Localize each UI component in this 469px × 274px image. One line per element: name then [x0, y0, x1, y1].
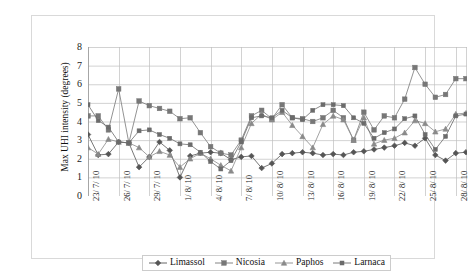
data-point-marker: [320, 152, 326, 158]
data-point-marker: [96, 119, 100, 123]
data-point-marker: [280, 108, 284, 112]
data-point-marker: [270, 116, 274, 120]
data-point-marker: [178, 142, 182, 146]
data-point-marker: [290, 116, 294, 120]
data-point-marker: [155, 260, 161, 266]
data-point-marker: [198, 130, 203, 135]
data-point-marker: [238, 154, 244, 160]
data-point-marker: [381, 145, 387, 151]
data-point-marker: [361, 149, 367, 155]
data-point-marker: [229, 153, 234, 158]
data-point-marker: [463, 149, 467, 155]
data-point-marker: [222, 261, 227, 266]
data-point-marker: [433, 95, 438, 100]
data-point-marker: [147, 103, 152, 108]
data-point-marker: [392, 136, 397, 141]
data-point-marker: [371, 147, 377, 153]
data-point-marker: [392, 115, 397, 120]
x-axis-tick-label: 29/ 7/ 10: [153, 171, 162, 201]
data-point-marker: [88, 145, 91, 150]
data-point-marker: [330, 151, 336, 157]
data-point-marker: [453, 76, 458, 81]
data-point-marker: [341, 104, 345, 108]
legend-item-limassol: Limassol: [148, 258, 205, 268]
data-point-marker: [372, 128, 377, 133]
data-point-marker: [352, 116, 356, 120]
data-point-marker: [372, 136, 376, 140]
data-point-marker: [229, 159, 233, 163]
legend-marker-diamond-icon: [148, 258, 168, 268]
y-axis-tick-label: 5: [66, 98, 82, 108]
y-axis-tick-label: 7: [66, 61, 82, 71]
data-point-marker: [444, 134, 448, 138]
data-point-marker: [208, 144, 213, 149]
data-point-marker: [260, 114, 264, 118]
y-axis-tick-label: 8: [66, 42, 82, 52]
data-point-marker: [239, 140, 243, 144]
legend-label: Larnaca: [354, 258, 385, 268]
data-point-marker: [433, 152, 439, 158]
data-point-marker: [88, 114, 90, 119]
data-point-marker: [157, 149, 162, 154]
legend-item-nicosia: Nicosia: [214, 258, 265, 268]
data-point-marker: [362, 121, 366, 125]
data-point-marker: [443, 92, 448, 97]
series-nicosia: [88, 65, 467, 157]
data-point-marker: [443, 158, 449, 164]
x-axis-tick-label: 1/ 8/ 10: [184, 175, 193, 201]
data-point-marker: [413, 114, 417, 118]
data-point-marker: [249, 116, 253, 120]
data-point-marker: [290, 150, 296, 156]
data-point-marker: [198, 150, 202, 154]
data-point-marker: [280, 102, 285, 107]
y-axis-tick-label: 2: [66, 154, 82, 164]
data-point-marker: [382, 114, 387, 119]
x-axis-tick-label: 25/ 8/ 10: [429, 171, 438, 201]
legend-item-larnaca: Larnaca: [332, 258, 385, 268]
x-axis-tick-label: 16/ 8/ 10: [337, 171, 346, 201]
data-point-marker: [188, 143, 192, 147]
data-point-marker: [382, 131, 386, 135]
x-axis-tick-label: 10/ 8/ 10: [276, 171, 285, 201]
legend-label: Nicosia: [236, 258, 265, 268]
data-point-marker: [178, 116, 183, 121]
data-point-marker: [433, 147, 437, 151]
data-point-marker: [219, 167, 223, 171]
data-point-marker: [464, 112, 467, 116]
data-point-marker: [219, 151, 224, 156]
data-point-marker: [116, 87, 121, 92]
data-point-marker: [310, 150, 316, 156]
x-axis-tick-label: 22/ 8/ 10: [398, 171, 407, 201]
data-point-marker: [106, 136, 111, 141]
data-point-marker: [423, 82, 428, 87]
legend-marker-square-icon: [214, 258, 234, 268]
data-point-marker: [311, 108, 315, 112]
legend-marker-square-small-icon: [332, 258, 352, 268]
data-point-marker: [158, 133, 162, 137]
data-point-marker: [137, 99, 142, 104]
data-point-marker: [453, 150, 459, 156]
data-point-marker: [127, 141, 131, 145]
data-point-marker: [208, 149, 214, 155]
data-point-marker: [168, 136, 172, 140]
x-axis-tick-label: 28/ 8/ 10: [460, 171, 469, 201]
data-point-marker: [106, 125, 110, 129]
x-axis-tick-label: 26/ 7/ 10: [123, 171, 132, 201]
data-point-marker: [340, 261, 344, 265]
data-point-marker: [209, 160, 213, 164]
legend-item-paphos: Paphos: [274, 258, 323, 268]
data-point-marker: [88, 103, 90, 107]
data-point-marker: [341, 152, 347, 158]
data-point-marker: [403, 117, 407, 121]
data-point-marker: [362, 110, 367, 115]
chart-legend: LimassolNicosiaPaphosLarnaca: [142, 255, 391, 271]
x-axis-tick-label: 13/ 8/ 10: [307, 171, 316, 201]
data-point-marker: [371, 141, 376, 146]
data-point-marker: [331, 103, 335, 107]
legend-marker-triangle-icon: [274, 258, 294, 268]
data-point-marker: [136, 145, 141, 150]
y-axis-tick-label: 3: [66, 135, 82, 145]
data-point-marker: [137, 129, 141, 133]
data-point-marker: [392, 143, 398, 149]
data-point-marker: [188, 115, 193, 120]
